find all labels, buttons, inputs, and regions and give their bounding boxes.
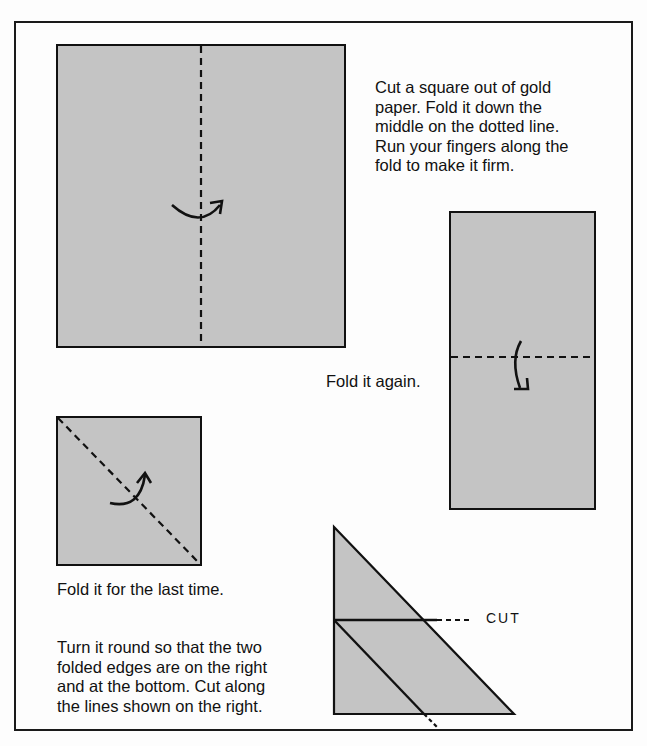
step4-line: Turn it round so that the two <box>57 638 317 658</box>
step1-line: Run your fingers along the <box>375 137 615 157</box>
small-square-diagram <box>56 416 202 566</box>
step3-instructions: Fold it for the last time. <box>57 580 224 600</box>
step2-instructions: Fold it again. <box>326 372 420 392</box>
step4-line: the lines shown on the right. <box>57 697 317 717</box>
step4-line: and at the bottom. Cut along <box>57 677 317 697</box>
step1-line: fold to make it firm. <box>375 156 615 176</box>
cut-label: CUT <box>486 609 521 629</box>
step1-line: middle on the dotted line. <box>375 117 615 137</box>
step1-line: paper. Fold it down the <box>375 98 615 118</box>
step1-line: Cut a square out of gold <box>375 78 615 98</box>
step4-line: folded edges are on the right <box>57 658 317 678</box>
step1-instructions: Cut a square out of gold paper. Fold it … <box>375 78 615 176</box>
rectangle-paper-diagram <box>449 211 596 510</box>
square-paper-diagram <box>56 44 346 348</box>
step4-instructions: Turn it round so that the two folded edg… <box>57 638 317 716</box>
